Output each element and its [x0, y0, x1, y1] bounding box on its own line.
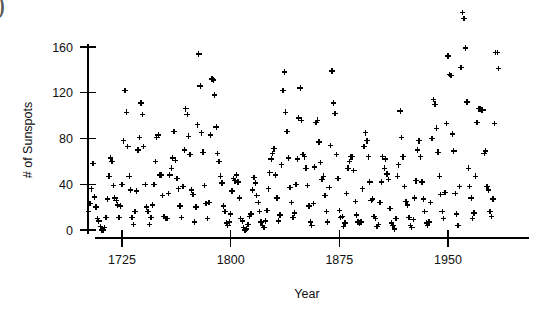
data-point-marker [384, 171, 390, 177]
data-point-marker [303, 165, 309, 171]
data-point-marker [268, 156, 274, 162]
data-point-marker [324, 209, 330, 215]
data-point-marker [179, 215, 185, 221]
data-point-marker [171, 129, 177, 135]
data-point-marker [396, 162, 402, 168]
data-point-marker [437, 173, 443, 179]
data-point-marker [466, 165, 472, 171]
data-point-marker [400, 154, 406, 160]
data-point-marker [186, 133, 192, 139]
data-point-marker [192, 219, 198, 225]
data-point-marker [128, 187, 134, 193]
data-point-marker [135, 147, 141, 153]
data-point-marker [297, 85, 303, 91]
data-point-marker [131, 222, 137, 228]
data-point-marker [461, 16, 467, 22]
data-point-marker [234, 172, 240, 178]
data-point-marker [221, 203, 227, 209]
data-point-marker [470, 216, 476, 222]
data-point-marker [89, 186, 95, 192]
data-point-marker [492, 121, 498, 127]
y-axis-title: # of Sunspots [21, 102, 35, 178]
data-point-marker [206, 200, 212, 206]
scatter-plot-svg: 04080120160 1725180018751950 Year # of S… [0, 0, 538, 313]
data-point-marker [363, 130, 369, 136]
data-point-marker [121, 138, 127, 144]
data-point-marker [364, 138, 370, 144]
data-point-marker [151, 182, 157, 188]
data-point-marker [273, 172, 279, 178]
data-point-marker [305, 183, 311, 189]
data-point-marker [287, 185, 293, 191]
data-point-marker [203, 201, 209, 207]
data-point-marker [360, 186, 366, 192]
data-point-marker [222, 209, 228, 215]
data-point-marker [413, 178, 419, 184]
data-point-marker [116, 215, 122, 221]
data-point-marker [228, 211, 234, 217]
data-point-marker [441, 216, 447, 222]
data-point-marker [125, 144, 131, 150]
data-point-marker [345, 165, 351, 171]
x-axis-tick-label: 1875 [325, 253, 353, 267]
data-point-marker [418, 154, 424, 160]
y-axis-ticks-group: 04080120160 [52, 41, 96, 238]
data-point-marker [202, 183, 208, 189]
data-point-marker [463, 45, 469, 51]
data-point-marker [169, 165, 175, 171]
data-point-marker [412, 195, 418, 201]
data-point-marker [460, 10, 466, 16]
data-point-marker [337, 208, 343, 214]
data-point-marker [118, 203, 124, 209]
data-point-marker [266, 186, 272, 192]
data-point-marker [126, 173, 132, 179]
y-axis-tick-label: 0 [66, 224, 73, 238]
data-point-marker [167, 172, 173, 178]
data-point-marker [395, 173, 401, 179]
data-point-marker [496, 66, 502, 72]
data-point-marker [416, 138, 422, 144]
data-point-marker [106, 173, 112, 179]
data-point-marker [367, 179, 373, 185]
data-point-marker [264, 208, 270, 214]
data-point-marker [274, 195, 280, 201]
data-point-marker [184, 112, 190, 118]
data-point-marker [90, 161, 96, 167]
data-point-marker [174, 176, 180, 182]
data-point-marker [415, 147, 421, 153]
y-axis-tick-label: 40 [59, 178, 73, 192]
data-point-marker [166, 191, 172, 197]
data-point-marker [279, 162, 285, 168]
data-point-marker [251, 175, 257, 181]
data-point-marker [451, 148, 457, 154]
data-point-marker [402, 184, 408, 190]
data-point-marker [318, 160, 324, 166]
data-point-marker [386, 177, 392, 183]
data-point-marker [421, 196, 427, 202]
x-axis-tick-label: 1725 [108, 253, 136, 267]
data-point-marker [312, 164, 318, 170]
data-point-marker [140, 112, 146, 118]
data-point-marker [237, 195, 243, 201]
data-point-marker [280, 88, 286, 94]
data-point-marker [361, 144, 367, 150]
data-point-marker [444, 121, 450, 127]
data-point-marker [282, 69, 288, 75]
data-point-marker [458, 65, 464, 71]
data-point-marker [328, 143, 334, 149]
data-point-marker [455, 223, 461, 229]
data-point-marker [254, 193, 260, 199]
data-point-marker [119, 182, 125, 188]
x-axis-tick-label: 1950 [434, 253, 462, 267]
data-point-marker [196, 51, 202, 57]
data-point-marker [267, 170, 273, 176]
data-point-marker [195, 122, 201, 128]
data-point-marker [183, 106, 189, 112]
data-point-marker [295, 156, 301, 162]
data-point-marker [473, 173, 479, 179]
data-point-marker [142, 182, 148, 188]
data-point-marker [379, 179, 385, 185]
data-point-marker [177, 203, 183, 209]
data-point-marker [283, 109, 289, 115]
data-point-marker [148, 215, 154, 221]
